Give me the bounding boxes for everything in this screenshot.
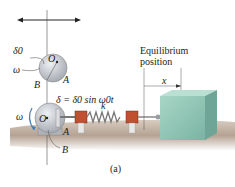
- a-bottom-label: A: [63, 127, 69, 137]
- vibration-diagram: [0, 0, 235, 187]
- o-top-label: O: [48, 54, 55, 64]
- double-arrow-icon: [17, 18, 81, 23]
- equilibrium-line2: position: [140, 56, 188, 67]
- omega-top-label: ω: [13, 65, 20, 75]
- a-top-label: A: [63, 75, 69, 85]
- omega-bottom-label: ω: [16, 112, 23, 122]
- block: [160, 90, 217, 140]
- x-label: x: [162, 76, 166, 86]
- figure-caption: (a): [110, 163, 121, 174]
- top-disk: [22, 54, 67, 82]
- spring-k-label: k: [101, 101, 105, 111]
- b-top-label: B: [34, 80, 40, 90]
- o-bottom-label: O: [39, 114, 46, 124]
- b-bottom-label: B: [62, 145, 68, 155]
- equilibrium-line1: Equilibrium: [140, 45, 188, 56]
- equilibrium-position-label: Equilibrium position: [140, 45, 188, 67]
- spring-k: [87, 112, 120, 122]
- delta0-label: δ0: [13, 46, 23, 56]
